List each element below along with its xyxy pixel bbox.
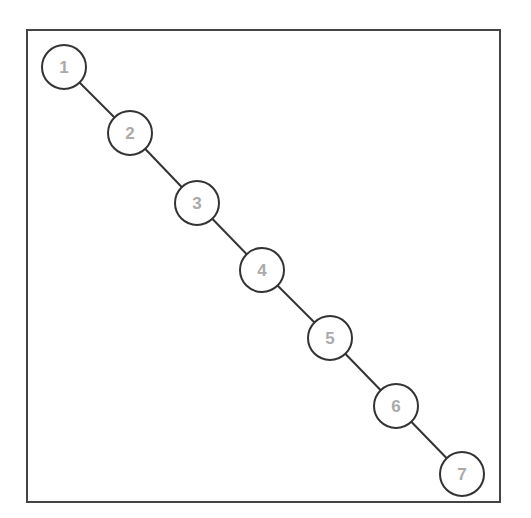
tree-node-5: 5 (308, 316, 352, 360)
node-label: 2 (125, 124, 134, 143)
node-label: 3 (192, 194, 201, 213)
node-label: 1 (59, 58, 68, 77)
tree-node-4: 4 (240, 248, 284, 292)
tree-node-7: 7 (440, 452, 484, 496)
node-label: 6 (391, 397, 400, 416)
node-label: 4 (257, 261, 267, 280)
tree-node-6: 6 (374, 384, 418, 428)
node-label: 7 (457, 465, 466, 484)
tree-node-2: 2 (108, 111, 152, 155)
tree-node-3: 3 (175, 181, 219, 225)
tree-node-1: 1 (42, 45, 86, 89)
tree-diagram: 1234567 (0, 0, 531, 518)
node-label: 5 (325, 329, 334, 348)
